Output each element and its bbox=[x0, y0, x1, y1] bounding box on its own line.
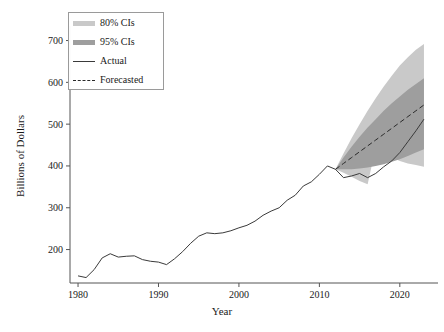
band-95-swatch-icon bbox=[73, 37, 95, 47]
y-tick-label: 700 bbox=[48, 35, 63, 46]
chart-legend: 80% CIs 95% CIs Actual Forecasted bbox=[68, 12, 164, 90]
legend-item-95ci: 95% CIs bbox=[69, 32, 163, 51]
x-tick-label: 2020 bbox=[390, 289, 410, 300]
x-tick-label: 1980 bbox=[68, 289, 88, 300]
legend-item-80ci: 80% CIs bbox=[69, 13, 163, 32]
legend-label-95ci: 95% CIs bbox=[100, 36, 135, 47]
y-tick-label: 500 bbox=[48, 119, 63, 130]
y-tick-label: 400 bbox=[48, 160, 63, 171]
y-tick-label: 200 bbox=[48, 244, 63, 255]
confidence-bands-layer bbox=[335, 44, 423, 184]
dashed-line-key-icon bbox=[73, 75, 95, 85]
legend-label-forecasted: Forecasted bbox=[100, 74, 143, 85]
legend-label-80ci: 80% CIs bbox=[100, 17, 135, 28]
y-tick-label: 600 bbox=[48, 77, 63, 88]
chart-canvas: 20030040050060070019801990200020102020 bbox=[0, 0, 444, 332]
y-tick-label: 300 bbox=[48, 202, 63, 213]
y-axis-title: Billions of Dollars bbox=[14, 76, 26, 236]
legend-item-forecasted: Forecasted bbox=[69, 70, 163, 89]
legend-label-actual: Actual bbox=[100, 55, 127, 66]
x-axis-title: Year bbox=[0, 305, 444, 317]
x-tick-label: 1990 bbox=[148, 289, 168, 300]
legend-item-actual: Actual bbox=[69, 51, 163, 70]
solid-line-key-icon bbox=[73, 56, 95, 66]
x-tick-label: 2010 bbox=[309, 289, 329, 300]
chart-root: 20030040050060070019801990200020102020 Y… bbox=[0, 0, 444, 332]
band-80-swatch-icon bbox=[73, 18, 95, 28]
x-tick-label: 2000 bbox=[229, 289, 249, 300]
